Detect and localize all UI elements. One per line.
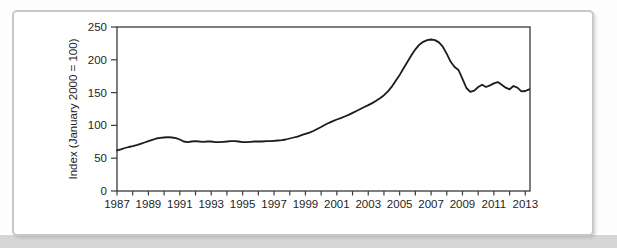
y-axis-tick-label: 150 bbox=[88, 87, 107, 99]
y-axis-tick-label: 50 bbox=[94, 152, 107, 164]
x-axis-tick-label: 1991 bbox=[167, 198, 193, 210]
data-line bbox=[117, 40, 529, 151]
y-axis-tick-label: 0 bbox=[101, 185, 107, 197]
page: 0501001502002501987198919911993199519971… bbox=[0, 0, 617, 248]
x-axis-tick-label: 2001 bbox=[324, 198, 350, 210]
x-axis-tick-label: 1997 bbox=[261, 198, 287, 210]
x-axis-tick-label: 2011 bbox=[482, 198, 507, 210]
x-axis-tick-label: 1999 bbox=[293, 198, 319, 210]
y-axis-tick-label: 250 bbox=[88, 21, 107, 33]
x-axis-tick-label: 1993 bbox=[198, 198, 224, 210]
x-axis-tick-label: 2013 bbox=[512, 198, 538, 210]
x-axis-tick-label: 2003 bbox=[355, 198, 381, 210]
x-axis-tick-label: 1987 bbox=[104, 198, 130, 210]
house-price-index-line-chart: 0501001502002501987198919911993199519971… bbox=[0, 0, 617, 248]
y-axis-title: Index (January 2000 = 100) bbox=[67, 38, 79, 179]
x-axis-tick-label: 2005 bbox=[387, 198, 413, 210]
plot-generated: 0501001502002501987198919911993199519971… bbox=[88, 21, 538, 210]
x-axis-tick-label: 2009 bbox=[450, 198, 476, 210]
x-axis-tick-label: 1989 bbox=[136, 198, 162, 210]
x-axis-tick-label: 2007 bbox=[418, 198, 444, 210]
y-axis-tick-label: 200 bbox=[88, 54, 107, 66]
y-axis-tick-label: 100 bbox=[88, 119, 107, 131]
plot-border bbox=[117, 27, 530, 191]
x-axis-tick-label: 1995 bbox=[230, 198, 256, 210]
